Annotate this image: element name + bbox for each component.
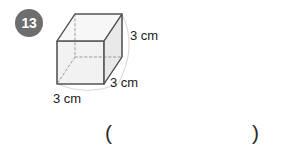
dimension-label-width: 3 cm [53,91,81,106]
cube-face-left [57,41,104,84]
answer-open-paren: ( [105,118,112,148]
dimension-label-depth: 3 cm [110,75,138,90]
answer-blank-field[interactable] [118,120,248,146]
cube-figure [48,5,153,105]
question-number-badge: 13 [15,9,43,37]
worksheet-canvas: 13 [0,0,290,151]
dimension-label-height: 3 cm [130,28,158,43]
answer-row: ( ) [0,118,290,148]
cube-diagram-svg [48,5,153,105]
answer-close-paren: ) [252,118,259,148]
